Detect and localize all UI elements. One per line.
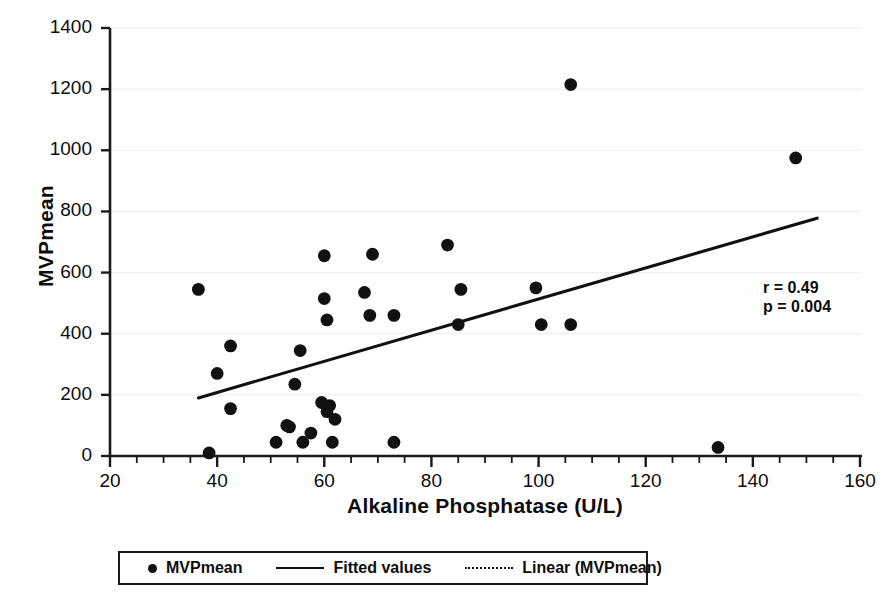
data-point [288, 378, 301, 391]
y-axis-title: MVPmean [34, 146, 58, 326]
x-tick-label: 40 [187, 470, 247, 492]
x-tick-label: 160 [830, 470, 890, 492]
data-point [388, 436, 401, 449]
data-point [789, 152, 802, 165]
data-point [304, 427, 317, 440]
legend-item-mvpmean[interactable]: MVPmean [148, 559, 242, 577]
horizontal-gridlines [110, 28, 862, 395]
y-tick-label: 1400 [22, 16, 92, 38]
data-point [294, 344, 307, 357]
data-point [452, 318, 465, 331]
annotation-r-value: r = 0.49 [763, 278, 831, 297]
data-point [358, 286, 371, 299]
y-axis-major-ticks [101, 28, 110, 456]
data-point [323, 399, 336, 412]
data-point [203, 447, 216, 460]
data-point [211, 367, 224, 380]
legend-item-fitted-values[interactable]: Fitted values [276, 559, 431, 577]
chart-plot-area [0, 0, 891, 535]
data-point [363, 309, 376, 322]
data-point [224, 402, 237, 415]
x-axis-title: Alkaline Phosphatase (U/L) [235, 494, 735, 518]
data-point [454, 283, 467, 296]
legend-label-linear-mvpmean: Linear (MVPmean) [522, 559, 662, 577]
correlation-annotation: r = 0.49 p = 0.004 [763, 278, 831, 316]
data-point [321, 314, 334, 327]
legend-item-linear-mvpmean[interactable]: Linear (MVPmean) [465, 559, 662, 577]
data-point [283, 421, 296, 434]
annotation-p-value: p = 0.004 [763, 297, 831, 316]
data-point [366, 248, 379, 261]
y-tick-label: 1000 [22, 138, 92, 160]
data-point [529, 281, 542, 294]
legend-label-mvpmean: MVPmean [166, 559, 242, 577]
data-point [564, 318, 577, 331]
y-tick-label: 800 [22, 199, 92, 221]
y-tick-label: 0 [22, 444, 92, 466]
data-point [318, 292, 331, 305]
y-tick-label: 600 [22, 261, 92, 283]
data-point [712, 441, 725, 454]
solid-line-marker-icon [276, 567, 324, 569]
data-point [192, 283, 205, 296]
data-point [535, 318, 548, 331]
fitted-values-line [198, 218, 817, 398]
filled-circle-marker-icon [148, 564, 157, 573]
data-point [318, 249, 331, 262]
dotted-line-marker-icon [465, 567, 513, 569]
data-point [224, 340, 237, 353]
x-tick-label: 20 [80, 470, 140, 492]
legend-label-fitted-values: Fitted values [333, 559, 431, 577]
y-tick-label: 400 [22, 322, 92, 344]
x-tick-label: 80 [401, 470, 461, 492]
chart-legend: MVPmean Fitted values Linear (MVPmean) [118, 551, 648, 585]
data-point [564, 78, 577, 91]
data-point [326, 436, 339, 449]
scatter-plot-figure: MVPmean Alkaline Phosphatase (U/L) 02004… [0, 0, 891, 610]
x-tick-label: 120 [616, 470, 676, 492]
data-point [329, 413, 342, 426]
x-tick-label: 60 [294, 470, 354, 492]
x-tick-label: 100 [509, 470, 569, 492]
x-tick-label: 140 [723, 470, 783, 492]
data-point [388, 309, 401, 322]
y-tick-label: 1200 [22, 77, 92, 99]
scatter-data-points [192, 78, 802, 459]
data-point [270, 436, 283, 449]
data-point [441, 239, 454, 252]
y-tick-label: 200 [22, 383, 92, 405]
